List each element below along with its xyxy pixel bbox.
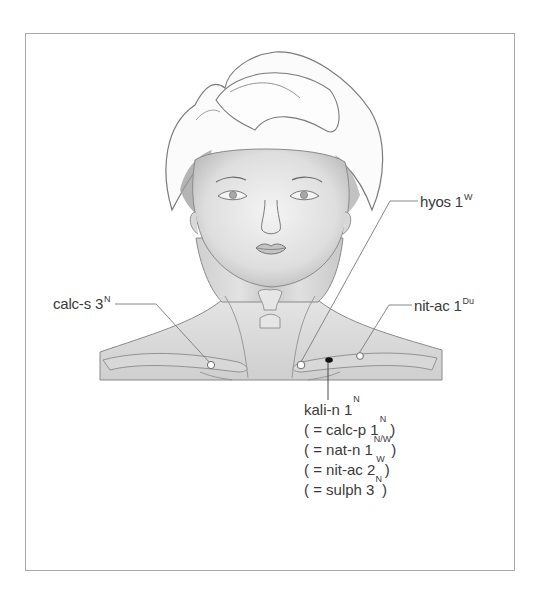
label-hyos: hyos 1W bbox=[420, 193, 472, 213]
equivalent-line: ( = sulph 3N) bbox=[304, 478, 396, 498]
label-calc-s: calc-s 3N bbox=[53, 295, 110, 315]
equivalent-line: ( = nit-ac 2W) bbox=[304, 458, 396, 478]
point-calc-s bbox=[207, 361, 214, 368]
label-nit-ac: nit-ac 1Du bbox=[414, 297, 474, 317]
point-nit-ac bbox=[357, 353, 364, 360]
point-hyos bbox=[297, 361, 305, 369]
point-kali-n bbox=[325, 357, 333, 363]
shoulders bbox=[100, 300, 442, 380]
kali-n-label-block: kali-n 1N ( = calc-p 1N ) ( = nat-n 1N/W… bbox=[304, 398, 396, 498]
